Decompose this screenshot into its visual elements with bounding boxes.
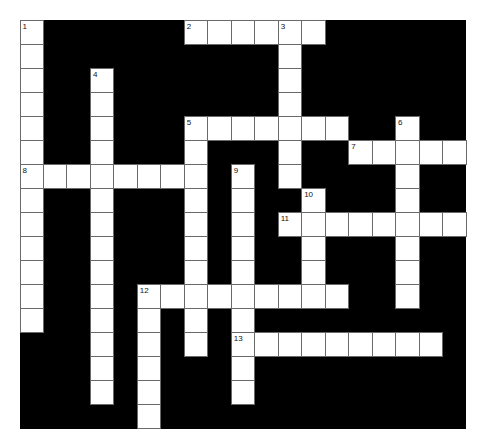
- letter-cell[interactable]: [231, 188, 255, 213]
- letter-cell[interactable]: [20, 236, 44, 261]
- letter-cell[interactable]: [325, 332, 349, 357]
- letter-cell[interactable]: [278, 332, 302, 357]
- letter-cell[interactable]: [113, 164, 137, 189]
- letter-cell[interactable]: [231, 212, 255, 237]
- letter-cell[interactable]: [231, 236, 255, 261]
- letter-cell[interactable]: [20, 212, 44, 237]
- letter-cell[interactable]: [231, 20, 255, 45]
- letter-cell[interactable]: [90, 356, 114, 381]
- letter-cell[interactable]: [184, 260, 208, 285]
- letter-cell[interactable]: [90, 188, 114, 213]
- letter-cell[interactable]: [278, 44, 302, 69]
- letter-cell[interactable]: [278, 92, 302, 117]
- letter-cell[interactable]: [348, 212, 372, 237]
- letter-cell[interactable]: [90, 92, 114, 117]
- letter-cell[interactable]: 8: [20, 164, 44, 189]
- letter-cell[interactable]: [419, 140, 443, 165]
- letter-cell[interactable]: [278, 116, 302, 141]
- letter-cell[interactable]: [372, 332, 396, 357]
- letter-cell[interactable]: [184, 164, 208, 189]
- letter-cell[interactable]: [137, 380, 161, 405]
- letter-cell[interactable]: [184, 188, 208, 213]
- letter-cell[interactable]: [442, 140, 466, 165]
- letter-cell[interactable]: [231, 284, 255, 309]
- letter-cell[interactable]: [184, 284, 208, 309]
- letter-cell[interactable]: [20, 284, 44, 309]
- letter-cell[interactable]: [231, 380, 255, 405]
- letter-cell[interactable]: 3: [278, 20, 302, 45]
- letter-cell[interactable]: [20, 260, 44, 285]
- letter-cell[interactable]: [20, 140, 44, 165]
- letter-cell[interactable]: [395, 332, 419, 357]
- letter-cell[interactable]: [184, 332, 208, 357]
- letter-cell[interactable]: [442, 212, 466, 237]
- letter-cell[interactable]: [419, 212, 443, 237]
- letter-cell[interactable]: [301, 332, 325, 357]
- letter-cell[interactable]: [90, 116, 114, 141]
- letter-cell[interactable]: 4: [90, 68, 114, 93]
- letter-cell[interactable]: [254, 284, 278, 309]
- letter-cell[interactable]: [395, 284, 419, 309]
- letter-cell[interactable]: [395, 260, 419, 285]
- letter-cell[interactable]: [254, 116, 278, 141]
- letter-cell[interactable]: [160, 164, 184, 189]
- letter-cell[interactable]: [90, 140, 114, 165]
- letter-cell[interactable]: [137, 332, 161, 357]
- letter-cell[interactable]: [20, 308, 44, 333]
- letter-cell[interactable]: [301, 116, 325, 141]
- letter-cell[interactable]: [90, 236, 114, 261]
- letter-cell[interactable]: [348, 332, 372, 357]
- letter-cell[interactable]: 10: [301, 188, 325, 213]
- letter-cell[interactable]: [372, 140, 396, 165]
- letter-cell[interactable]: [137, 356, 161, 381]
- letter-cell[interactable]: [137, 308, 161, 333]
- letter-cell[interactable]: [90, 380, 114, 405]
- letter-cell[interactable]: [66, 164, 90, 189]
- letter-cell[interactable]: [20, 44, 44, 69]
- letter-cell[interactable]: [278, 68, 302, 93]
- letter-cell[interactable]: [301, 260, 325, 285]
- letter-cell[interactable]: 2: [184, 20, 208, 45]
- letter-cell[interactable]: [278, 284, 302, 309]
- letter-cell[interactable]: [395, 188, 419, 213]
- letter-cell[interactable]: [207, 20, 231, 45]
- letter-cell[interactable]: [137, 404, 161, 429]
- letter-cell[interactable]: [231, 308, 255, 333]
- letter-cell[interactable]: [301, 20, 325, 45]
- letter-cell[interactable]: [395, 212, 419, 237]
- letter-cell[interactable]: [278, 164, 302, 189]
- letter-cell[interactable]: 5: [184, 116, 208, 141]
- letter-cell[interactable]: 6: [395, 116, 419, 141]
- letter-cell[interactable]: [184, 212, 208, 237]
- letter-cell[interactable]: [231, 260, 255, 285]
- letter-cell[interactable]: [301, 236, 325, 261]
- letter-cell[interactable]: [160, 284, 184, 309]
- letter-cell[interactable]: 11: [278, 212, 302, 237]
- letter-cell[interactable]: [395, 236, 419, 261]
- letter-cell[interactable]: [20, 92, 44, 117]
- letter-cell[interactable]: [325, 116, 349, 141]
- letter-cell[interactable]: 13: [231, 332, 255, 357]
- letter-cell[interactable]: [395, 140, 419, 165]
- letter-cell[interactable]: [372, 212, 396, 237]
- letter-cell[interactable]: [254, 20, 278, 45]
- letter-cell[interactable]: [207, 284, 231, 309]
- letter-cell[interactable]: [325, 284, 349, 309]
- letter-cell[interactable]: [20, 68, 44, 93]
- letter-cell[interactable]: 9: [231, 164, 255, 189]
- letter-cell[interactable]: 1: [20, 20, 44, 45]
- letter-cell[interactable]: [20, 116, 44, 141]
- letter-cell[interactable]: [90, 284, 114, 309]
- letter-cell[interactable]: [325, 212, 349, 237]
- letter-cell[interactable]: [90, 332, 114, 357]
- letter-cell[interactable]: [20, 188, 44, 213]
- letter-cell[interactable]: [90, 164, 114, 189]
- letter-cell[interactable]: [43, 164, 67, 189]
- letter-cell[interactable]: [137, 164, 161, 189]
- letter-cell[interactable]: [90, 260, 114, 285]
- letter-cell[interactable]: [184, 236, 208, 261]
- letter-cell[interactable]: [301, 284, 325, 309]
- letter-cell[interactable]: [231, 116, 255, 141]
- letter-cell[interactable]: [90, 308, 114, 333]
- letter-cell[interactable]: [207, 116, 231, 141]
